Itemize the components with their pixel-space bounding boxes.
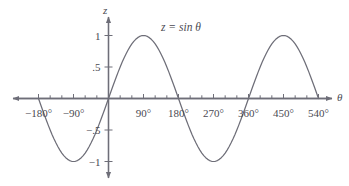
x-tick-label: −90° bbox=[63, 108, 85, 119]
axes-group bbox=[13, 17, 332, 178]
x-tick-label: 90° bbox=[136, 108, 151, 119]
x-tick-label: 180° bbox=[168, 108, 189, 119]
sine-graph-figure: −180°−90°90°180°270°360°450°540° 1.5−.5−… bbox=[0, 0, 349, 186]
y-tick-label: −1 bbox=[79, 156, 101, 167]
x-tick-label: 360° bbox=[238, 108, 259, 119]
x-tick-label: 270° bbox=[203, 108, 224, 119]
y-tick-label: .5 bbox=[79, 62, 101, 73]
y-axis-label: z bbox=[103, 5, 107, 16]
y-tick-label: −.5 bbox=[79, 125, 101, 136]
x-axis-label: θ bbox=[337, 92, 342, 103]
x-tick-label: 450° bbox=[273, 108, 294, 119]
x-tick-label: −180° bbox=[25, 108, 52, 119]
x-tick-label: 540° bbox=[308, 108, 329, 119]
y-tick-label: 1 bbox=[79, 30, 101, 41]
equation-annotation: z = sin θ bbox=[161, 22, 201, 34]
